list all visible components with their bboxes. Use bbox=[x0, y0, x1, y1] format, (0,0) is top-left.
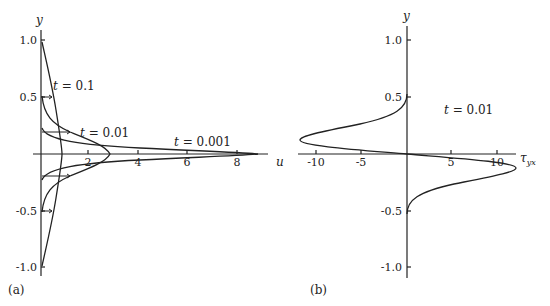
ytick-a-1: 1.0 bbox=[20, 34, 38, 47]
panel-tag-b: (b) bbox=[310, 283, 327, 297]
panel-b: y τyx 1.0 0.5 -0.5 -1.0 -10 -5 5 10 t = … bbox=[298, 9, 536, 297]
label-t-0.1: t = 0.1 bbox=[53, 79, 95, 93]
ytick-a-3: -0.5 bbox=[16, 205, 37, 218]
ytick-a-4: -1.0 bbox=[16, 261, 37, 274]
x-label-b: τyx bbox=[520, 151, 536, 167]
y-label-b: y bbox=[402, 9, 410, 23]
y-label-a: y bbox=[35, 13, 43, 27]
xtick-a-4: 8 bbox=[234, 156, 241, 169]
panel-tag-a: (a) bbox=[8, 283, 25, 297]
label-b-t-0.01: t = 0.01 bbox=[444, 103, 493, 117]
ytick-b-1: 1.0 bbox=[385, 34, 403, 47]
ytick-b-3: -0.5 bbox=[381, 205, 402, 218]
panel-a: y u 1.0 0.5 -0.5 -1.0 2 4 6 8 bbox=[8, 13, 284, 297]
label-t-0.01: t = 0.01 bbox=[80, 126, 129, 140]
x-label-a: u bbox=[276, 155, 284, 169]
ytick-b-4: -1.0 bbox=[381, 261, 402, 274]
xtick-a-2: 4 bbox=[135, 156, 142, 169]
ytick-a-2: 0.5 bbox=[20, 91, 38, 104]
label-t-0.001: t = 0.001 bbox=[174, 135, 231, 149]
ytick-b-2: 0.5 bbox=[385, 91, 403, 104]
figure: y u 1.0 0.5 -0.5 -1.0 2 4 6 8 bbox=[0, 0, 550, 306]
xtick-b-1: -10 bbox=[307, 156, 325, 169]
xtick-b-2: -5 bbox=[356, 156, 367, 169]
